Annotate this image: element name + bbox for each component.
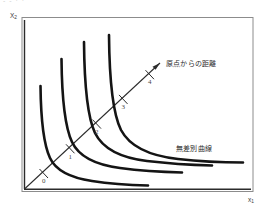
y-axis-label-subscript: 2 [14, 15, 17, 20]
y-axis-label: X2 [10, 13, 17, 20]
ray-tick-label-2: 2 [95, 129, 99, 136]
ray-tick-label-1: 1 [69, 154, 73, 161]
indifference-curve-annotation-label: 無差別曲線 [176, 145, 212, 152]
page-artifact-text: - - · · [3, 0, 25, 4]
ray-annotation-label: 原点からの距離 [166, 60, 216, 67]
x-axis-label: x1 [248, 197, 254, 204]
ray-tick-label-4: 4 [148, 79, 152, 86]
x-axis-label-subscript: 1 [251, 199, 254, 204]
ray-tick-label-0: 0 [42, 178, 46, 185]
figure-canvas: - - · · X2 [0, 0, 267, 213]
ray-tick-label-3: 3 [122, 104, 126, 111]
indifference-curve-diagram [0, 0, 267, 213]
